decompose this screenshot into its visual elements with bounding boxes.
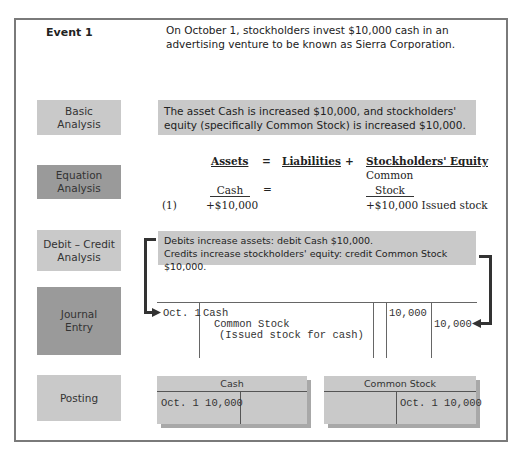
- t-account-cash: Cash Oct. 1 10,000: [157, 376, 307, 424]
- equation-equity-value: +$10,000 Issued stock: [366, 199, 488, 211]
- event-label: Event 1: [46, 26, 93, 39]
- journal-top-rule: [157, 302, 477, 303]
- debit-arrow-vertical: [144, 238, 147, 314]
- debit-credit-label-line1: Debit – Credit: [43, 238, 115, 251]
- t-account-common-stock-credit: Oct. 1 10,000: [400, 397, 482, 409]
- equation-header-plus: +: [345, 155, 354, 167]
- credit-rule-text: Credits increase stockholders' equity: c…: [164, 247, 470, 273]
- t-account-cash-title: Cash: [157, 376, 307, 392]
- journal-explanation: (Issued stock for cash): [219, 329, 364, 341]
- equation-sub-stock: Stock: [366, 184, 414, 197]
- equation-header-equity: Stockholders' Equity: [366, 155, 488, 167]
- event-description: On October 1, stockholders invest $10,00…: [166, 23, 486, 51]
- journal-entry-label: Journal Entry: [37, 287, 121, 355]
- journal-date: Oct. 1: [163, 307, 201, 319]
- equation-cash-value: +$10,000: [206, 199, 258, 211]
- equation-header-equals: =: [262, 155, 271, 167]
- basic-analysis-label: Basic Analysis: [37, 100, 121, 135]
- debit-arrowhead-icon: [152, 308, 161, 317]
- t-account-common-stock-divider: [396, 392, 397, 424]
- debit-credit-text: Debits increase assets: debit Cash $10,0…: [158, 231, 476, 265]
- t-account-common-stock-title: Common Stock: [324, 376, 476, 392]
- basic-analysis-label-line1: Basic: [57, 105, 100, 118]
- debit-credit-label-line2: Analysis: [43, 251, 115, 264]
- journal-credit-amount: 10,000: [434, 318, 472, 330]
- debit-rule-text: Debits increase assets: debit Cash $10,0…: [164, 234, 470, 247]
- credit-arrow-horizontal: [480, 322, 492, 325]
- basic-analysis-text: The asset Cash is increased $10,000, and…: [158, 100, 476, 135]
- equation-sub-common: Common: [366, 169, 413, 181]
- debit-credit-analysis-label: Debit – Credit Analysis: [37, 230, 121, 271]
- equation-header-liabilities: Liabilities: [282, 155, 341, 167]
- equation-row-number: (1): [162, 199, 177, 211]
- equation-header-assets: Assets: [211, 155, 248, 167]
- journal-ref-divider-right: [386, 302, 387, 358]
- journal-amount-divider: [431, 302, 432, 358]
- t-account-cash-debit: Oct. 1 10,000: [161, 397, 243, 409]
- equation-sub-cash: Cash: [210, 184, 250, 197]
- credit-arrow-vertical: [489, 255, 492, 325]
- journal-debit-amount: 10,000: [389, 307, 427, 319]
- t-account-common-stock: Common Stock Oct. 1 10,000: [324, 376, 476, 424]
- journal-entry-label-line2: Entry: [61, 321, 97, 334]
- posting-label: Posting: [37, 375, 121, 421]
- journal-entry-label-line1: Journal: [61, 308, 97, 321]
- posting-label-text: Posting: [60, 392, 98, 405]
- credit-arrowhead-icon: [472, 319, 481, 328]
- equation-analysis-label-line2: Analysis: [56, 182, 103, 195]
- equation-analysis-label: Equation Analysis: [37, 165, 121, 199]
- equation-sub-equals: =: [263, 183, 272, 195]
- equation-analysis-label-line1: Equation: [56, 169, 103, 182]
- journal-ref-divider-left: [373, 302, 374, 358]
- basic-analysis-label-line2: Analysis: [57, 118, 100, 131]
